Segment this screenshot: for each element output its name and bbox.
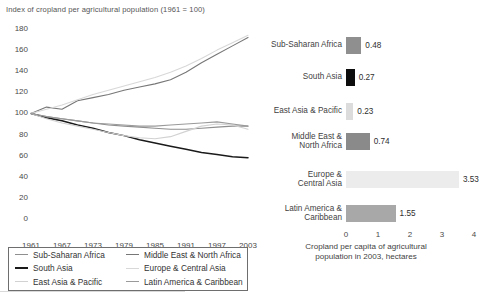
bar-rect[interactable] — [346, 37, 361, 54]
bar-rect[interactable] — [346, 103, 353, 120]
line-chart-plot: 0204060801001201401601801961196719731979… — [0, 14, 252, 242]
bar-wrapper: 0.48 — [346, 32, 381, 58]
bar-chart-axis-title: Cropland per capita of agricultural popu… — [250, 242, 482, 262]
bar-category-label: Middle East &North Africa — [250, 132, 342, 151]
legend-item-europe-central-asia[interactable]: Europe & Central Asia — [126, 263, 246, 273]
bar-category-label-line: East Asia & Pacific — [250, 106, 342, 115]
legend-swatch-europe-central-asia — [126, 268, 139, 269]
bar-wrapper: 1.55 — [346, 200, 416, 226]
bar-wrapper: 3.53 — [346, 166, 479, 192]
bar-chart-axis-title-line2: population in 2003, hectares — [250, 252, 482, 262]
y-axis-tick-label: 60 — [4, 151, 28, 160]
line-series-middle-east-north-africa — [31, 37, 248, 113]
source-divider — [0, 291, 185, 292]
bar-category-label: Sub-Saharan Africa — [250, 40, 342, 49]
bar-value-label: 1.55 — [400, 209, 416, 218]
line-chart-svg — [0, 14, 252, 242]
figure-canvas: Index of cropland per agricultural popul… — [0, 0, 482, 303]
legend-label-latin-america-caribbean: Latin America & Caribbean — [144, 277, 243, 287]
legend-swatch-east-asia-pacific — [15, 281, 28, 282]
line-series-europe-central-asia — [31, 35, 248, 113]
legend-item-south-asia[interactable]: South Asia — [9, 263, 126, 273]
bar-category-label: East Asia & Pacific — [250, 106, 342, 115]
y-axis-tick-label: 40 — [4, 172, 28, 181]
bar-rect[interactable] — [346, 133, 370, 150]
bar-value-label: 0.23 — [357, 107, 373, 116]
bar-chart: Cropland per capita of agricultural popu… — [250, 18, 482, 288]
legend-swatch-south-asia — [15, 267, 28, 269]
legend-label-east-asia-pacific: East Asia & Pacific — [33, 277, 102, 287]
bar-x-axis-tick-label: 4 — [464, 230, 482, 239]
y-axis-tick-label: 120 — [4, 87, 28, 96]
legend-label-sub-saharan-africa: Sub-Saharan Africa — [33, 250, 105, 260]
bar-row[interactable]: Europe &Central Asia3.53 — [250, 166, 482, 192]
legend-label-europe-central-asia: Europe & Central Asia — [144, 263, 226, 273]
bar-value-label: 0.48 — [365, 41, 381, 50]
y-axis-tick-label: 160 — [4, 45, 28, 54]
legend-swatch-sub-saharan-africa — [15, 254, 28, 255]
bar-x-axis-tick-label: 1 — [368, 230, 388, 239]
bar-row[interactable]: Middle East &North Africa0.74 — [250, 128, 482, 154]
line-chart-legend: Sub-Saharan Africa Middle East & North A… — [8, 247, 248, 291]
bar-category-label-line: Latin America & — [250, 204, 342, 213]
legend-row: Sub-Saharan Africa Middle East & North A… — [9, 248, 247, 262]
bar-value-label: 0.27 — [359, 73, 375, 82]
bar-row[interactable]: South Asia0.27 — [250, 64, 482, 90]
bar-category-label: Latin America &Caribbean — [250, 204, 342, 223]
bar-rect[interactable] — [346, 171, 459, 188]
bar-wrapper: 0.23 — [346, 98, 373, 124]
y-axis-tick-label: 140 — [4, 66, 28, 75]
bar-x-axis-tick-label: 2 — [400, 230, 420, 239]
line-chart-title: Index of cropland per agricultural popul… — [6, 5, 205, 14]
legend-item-sub-saharan-africa[interactable]: Sub-Saharan Africa — [9, 250, 126, 260]
legend-item-east-asia-pacific[interactable]: East Asia & Pacific — [9, 277, 126, 287]
bar-x-axis-tick-label: 3 — [432, 230, 452, 239]
bar-category-label-line: Caribbean — [250, 213, 342, 222]
bar-category-label: Europe &Central Asia — [250, 170, 342, 189]
line-series-south-asia — [31, 113, 248, 157]
legend-label-middle-east-north-africa: Middle East & North Africa — [144, 250, 241, 260]
y-axis-tick-label: 0 — [4, 214, 28, 223]
legend-label-south-asia: South Asia — [33, 263, 73, 273]
bar-row[interactable]: Latin America &Caribbean1.55 — [250, 200, 482, 226]
y-axis-tick-label: 100 — [4, 108, 28, 117]
bar-category-label-line: Sub-Saharan Africa — [250, 40, 342, 49]
bar-category-label-line: Europe & — [250, 170, 342, 179]
legend-item-latin-america-caribbean[interactable]: Latin America & Caribbean — [126, 277, 246, 287]
bar-category-label-line: North Africa — [250, 141, 342, 150]
bar-row[interactable]: Sub-Saharan Africa0.48 — [250, 32, 482, 58]
bar-x-axis-tick-label: 0 — [336, 230, 356, 239]
bar-wrapper: 0.27 — [346, 64, 375, 90]
bar-rect[interactable] — [346, 205, 396, 222]
bar-category-label-line: Central Asia — [250, 179, 342, 188]
legend-row: East Asia & Pacific Latin America & Cari… — [9, 275, 247, 289]
y-axis-tick-label: 20 — [4, 193, 28, 202]
legend-row: South Asia Europe & Central Asia — [9, 262, 247, 276]
bar-category-label-line: Middle East & — [250, 132, 342, 141]
bar-category-label-line: South Asia — [250, 72, 342, 81]
bar-row[interactable]: East Asia & Pacific0.23 — [250, 98, 482, 124]
legend-swatch-middle-east-north-africa — [126, 254, 139, 255]
bar-value-label: 3.53 — [463, 175, 479, 184]
bar-rect[interactable] — [346, 69, 355, 86]
y-axis-tick-label: 180 — [4, 24, 28, 33]
bar-chart-axis-title-line1: Cropland per capita of agricultural — [250, 242, 482, 252]
legend-swatch-latin-america-caribbean — [126, 281, 139, 282]
legend-item-middle-east-north-africa[interactable]: Middle East & North Africa — [126, 250, 246, 260]
bar-wrapper: 0.74 — [346, 128, 390, 154]
y-axis-tick-label: 80 — [4, 130, 28, 139]
bar-category-label: South Asia — [250, 72, 342, 81]
bar-value-label: 0.74 — [374, 137, 390, 146]
